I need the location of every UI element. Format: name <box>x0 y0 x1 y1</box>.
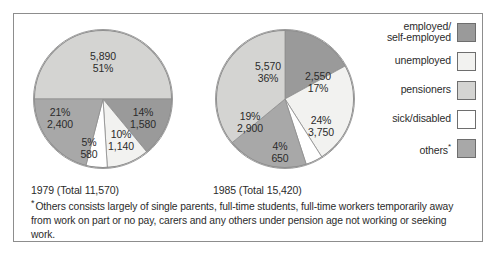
slice-percent-1979-others: 21% <box>38 107 82 119</box>
slice-percent-1985-employed: 17% <box>293 83 343 95</box>
legend-item-employed[interactable]: employed/ self-employed <box>376 22 476 42</box>
chart-footnote: *Others consists largely of single paren… <box>31 196 469 242</box>
slice-percent-1985-others: 19% <box>228 111 272 123</box>
legend-item-pensioners[interactable]: pensioners <box>376 80 476 100</box>
chart-legend: employed/ self-employed unemployed pensi… <box>376 22 476 167</box>
legend-label-sick-disabled: sick/disabled <box>392 113 457 125</box>
legend-swatch-sick-disabled <box>457 110 476 129</box>
slice-label-1985-sick-disabled: 4% 650 <box>265 141 295 164</box>
slice-value-1985-employed: 2,550 <box>293 71 343 83</box>
legend-label-pensioners: pensioners <box>401 84 457 96</box>
footnote-line2: from work on part or no pay, carers and … <box>31 215 446 240</box>
slice-percent-1979-employed: 14% <box>121 107 165 119</box>
slice-label-1985-unemployed: 24% 3,750 <box>299 115 343 138</box>
slice-value-1979-sick-disabled: 580 <box>74 149 104 161</box>
slice-value-1979-others: 2,400 <box>38 119 82 131</box>
slice-label-1979-pensioners: 5,890 51% <box>73 51 133 74</box>
legend-label-employed: employed/ self-employed <box>387 21 457 44</box>
chart-figure-frame: 5,890 51% 21% 2,400 14% 1,580 5% 580 10%… <box>13 13 483 242</box>
slice-value-1979-unemployed: 1,140 <box>103 141 139 153</box>
slice-label-1979-unemployed: 10% 1,140 <box>103 129 139 152</box>
slice-label-1985-pensioners: 5,570 36% <box>239 61 297 84</box>
legend-item-unemployed[interactable]: unemployed <box>376 51 476 71</box>
slice-percent-1985-pensioners: 36% <box>239 73 297 85</box>
slice-label-1985-others: 19% 2,900 <box>228 111 272 134</box>
legend-item-others[interactable]: others* <box>376 138 476 158</box>
slice-label-1979-employed: 14% 1,580 <box>121 107 165 130</box>
slice-percent-1979-sick-disabled: 5% <box>74 137 104 149</box>
pie-1979-caption: 1979 (Total 11,570) <box>31 184 119 196</box>
legend-item-sick-disabled[interactable]: sick/disabled <box>376 109 476 129</box>
slice-value-1985-pensioners: 5,570 <box>239 61 297 73</box>
slice-value-1979-pensioners: 5,890 <box>73 51 133 63</box>
footnote-line1: Others consists largely of single parent… <box>35 201 453 212</box>
slice-percent-1985-unemployed: 24% <box>299 115 343 127</box>
slice-label-1979-others: 21% 2,400 <box>38 107 82 130</box>
legend-swatch-pensioners <box>457 81 476 100</box>
legend-label-others: others* <box>419 141 457 156</box>
slice-value-1985-others: 2,900 <box>228 123 272 135</box>
pie-chart-1985: 5,570 36% 2,550 17% 19% 2,900 24% 3,750 … <box>215 29 355 169</box>
slice-label-1979-sick-disabled: 5% 580 <box>74 137 104 160</box>
slice-value-1985-sick-disabled: 650 <box>265 153 295 165</box>
slice-percent-1979-pensioners: 51% <box>73 63 133 75</box>
legend-label-unemployed: unemployed <box>395 55 457 67</box>
slice-percent-1985-sick-disabled: 4% <box>265 141 295 153</box>
slice-label-1985-employed: 2,550 17% <box>293 71 343 94</box>
legend-label-others-text: others <box>419 143 448 155</box>
slice-value-1985-unemployed: 3,750 <box>299 127 343 139</box>
legend-swatch-employed <box>457 23 476 42</box>
slice-percent-1979-unemployed: 10% <box>103 129 139 141</box>
pie-chart-1979: 5,890 51% 21% 2,400 14% 1,580 5% 580 10%… <box>33 29 173 169</box>
pie-1985-caption: 1985 (Total 15,420) <box>213 184 302 196</box>
legend-label-employed-line2: self-employed <box>387 32 451 44</box>
legend-swatch-others <box>457 139 476 158</box>
legend-asterisk-icon: * <box>448 142 451 151</box>
legend-swatch-unemployed <box>457 52 476 71</box>
